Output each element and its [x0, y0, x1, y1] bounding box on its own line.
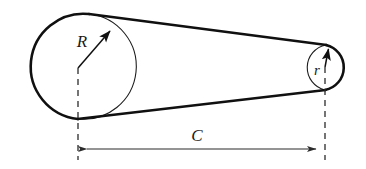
- label-large-radius: R: [76, 32, 88, 51]
- label-small-radius: r: [314, 62, 320, 78]
- belt-drive-diagram: R r C: [0, 0, 366, 169]
- belt-drive-figure: R r C: [0, 0, 366, 169]
- label-center-distance: C: [191, 126, 203, 145]
